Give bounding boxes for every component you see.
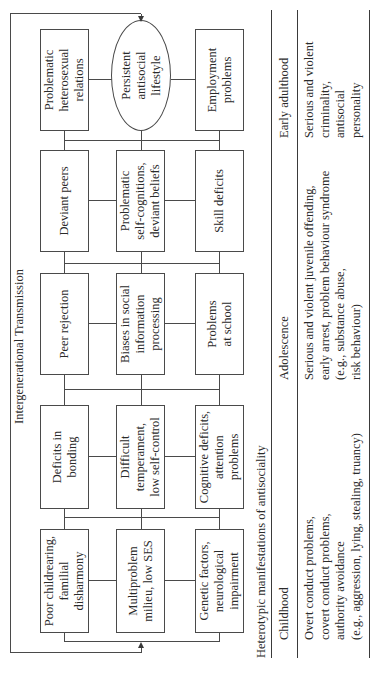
node-cognitive-deficits: Cognitive deficits, attention problems [195, 405, 244, 509]
node-peer-rejection: Peer rejection [40, 273, 89, 375]
bus-4-5-b [141, 131, 142, 150]
bus-2-3-a [64, 375, 65, 405]
stage5-inner-link-2 [171, 79, 195, 80]
bus-2-3-c [219, 375, 220, 405]
stage4-inner-link-2 [165, 200, 195, 201]
bus-stage-1-input [64, 641, 219, 642]
stage4-inner-link-1 [89, 200, 116, 201]
header-early-adulthood: Early adulthood [277, 58, 292, 138]
arrow-into-lifestyle-icon [138, 16, 144, 22]
diagram-title: Intergenerational Transmission [12, 269, 27, 424]
arrow-into-stage1-icon [138, 642, 144, 648]
node-employment-problems: Employment problems [195, 29, 244, 131]
bus-2-3-b [141, 375, 142, 405]
node-deficits-in-bonding: Deficits in bonding [40, 405, 89, 509]
bus-4-5-a [64, 131, 65, 150]
node-genetic-factors: Genetic factors, neurological impairment [195, 529, 244, 633]
cell-adolescence: Serious and violent juvenile offending, … [302, 140, 364, 380]
rotated-figure: Intergenerational Transmission Poor chil… [0, 0, 380, 678]
feedback-loop-start [10, 652, 141, 653]
bus-4-5-c [219, 131, 220, 150]
bus-3-4-a [64, 252, 65, 273]
feedback-loop-end [10, 13, 141, 14]
bus-1-2-a [64, 509, 65, 529]
bus-1-2-c [219, 509, 220, 529]
table-title: Heterotypic manifestations of antisocial… [254, 445, 269, 658]
node-deviant-peers: Deviant peers [40, 150, 89, 252]
bus-stage1-link-a [64, 633, 65, 642]
bus-3-4-b [141, 252, 142, 273]
bus-1-2-b [141, 509, 142, 529]
table-rule-bottom [369, 10, 370, 658]
feedback-loop-bottom [10, 14, 11, 653]
stage3-inner-link-2 [165, 323, 195, 324]
stage3-inner-link-1 [89, 323, 116, 324]
header-adolescence: Adolescence [277, 316, 292, 380]
header-childhood: Childhood [277, 587, 292, 640]
node-poor-childrearing: Poor childrearing, familial disharmony [40, 529, 89, 633]
bus-stage1-link-c [219, 633, 220, 642]
node-problematic-heterosexual-relations: Problematic heterosexual relations [40, 29, 89, 131]
stage1-inner-link-1 [89, 580, 116, 581]
node-difficult-temperament: Difficult temperament, low self-control [116, 405, 165, 509]
table-rule-header [297, 10, 298, 658]
bus-3-4-c [219, 252, 220, 273]
node-biases-social-info: Biases in social information processing [116, 273, 165, 375]
stage2-inner-link-2 [165, 456, 195, 457]
stage1-inner-link-2 [165, 580, 195, 581]
node-persistent-antisocial-lifestyle: Persistent antisocial lifestyle [111, 20, 171, 131]
stage2-inner-link-1 [89, 456, 116, 457]
node-multiproblem-milieu: Multiproblem milieu, low SES [116, 529, 165, 633]
node-skill-deficits: Skill deficits [195, 150, 244, 252]
cell-childhood: Overt conduct problems, covert conduct p… [302, 390, 364, 640]
node-problematic-self-cognitions: Problematic self-cognitions, deviant bel… [116, 150, 165, 252]
table-rule-top [271, 10, 272, 658]
cell-early-adulthood: Serious and violent criminality, antisoc… [302, 8, 364, 138]
node-problems-at-school: Problems at school [195, 273, 244, 375]
